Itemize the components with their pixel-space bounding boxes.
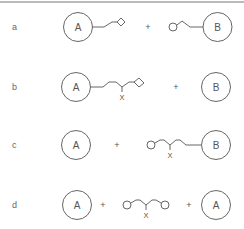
plus-operator: + [145, 22, 150, 32]
circle-reactive-group-icon [147, 141, 155, 149]
reaction-scheme-diagram: a A + B b A X + B c A + X B d [0, 0, 244, 229]
branch-x-label: X [167, 151, 172, 160]
plus-operator: + [114, 140, 119, 150]
plus-operator: + [100, 200, 105, 210]
molecule-a-label: A [213, 200, 220, 211]
branch-x-label: X [119, 93, 124, 102]
branched-linker [91, 82, 135, 87]
molecule-a-label: A [73, 140, 80, 151]
molecule-a-label: A [73, 82, 80, 93]
circle-reactive-group-icon [123, 201, 131, 209]
branch-x-label: X [143, 211, 148, 220]
molecule-b-label: B [213, 82, 220, 93]
row-b: b A X + B [12, 73, 231, 103]
molecule-a-label: A [75, 22, 82, 33]
row-label: a [12, 22, 17, 32]
row-label: b [12, 82, 17, 92]
row-label: c [12, 140, 17, 150]
bifunctional-linker [131, 200, 161, 205]
circle-reactive-group-icon [161, 201, 169, 209]
linker [93, 22, 118, 27]
molecule-b-label: B [213, 140, 220, 151]
linker [177, 21, 203, 27]
diamond-reactive-group-icon [117, 18, 125, 26]
plus-operator: + [186, 200, 191, 210]
diamond-reactive-group-icon [134, 78, 144, 87]
row-c: c A + X B [12, 131, 231, 161]
row-label: d [12, 200, 17, 210]
row-d: d A + X + A [12, 191, 231, 221]
plus-operator: + [173, 82, 178, 92]
branched-linker [155, 140, 201, 145]
molecule-a-label: A [74, 200, 81, 211]
row-a: a A + B [12, 13, 232, 42]
molecule-b-label: B [214, 22, 221, 33]
circle-reactive-group-icon [169, 23, 177, 31]
